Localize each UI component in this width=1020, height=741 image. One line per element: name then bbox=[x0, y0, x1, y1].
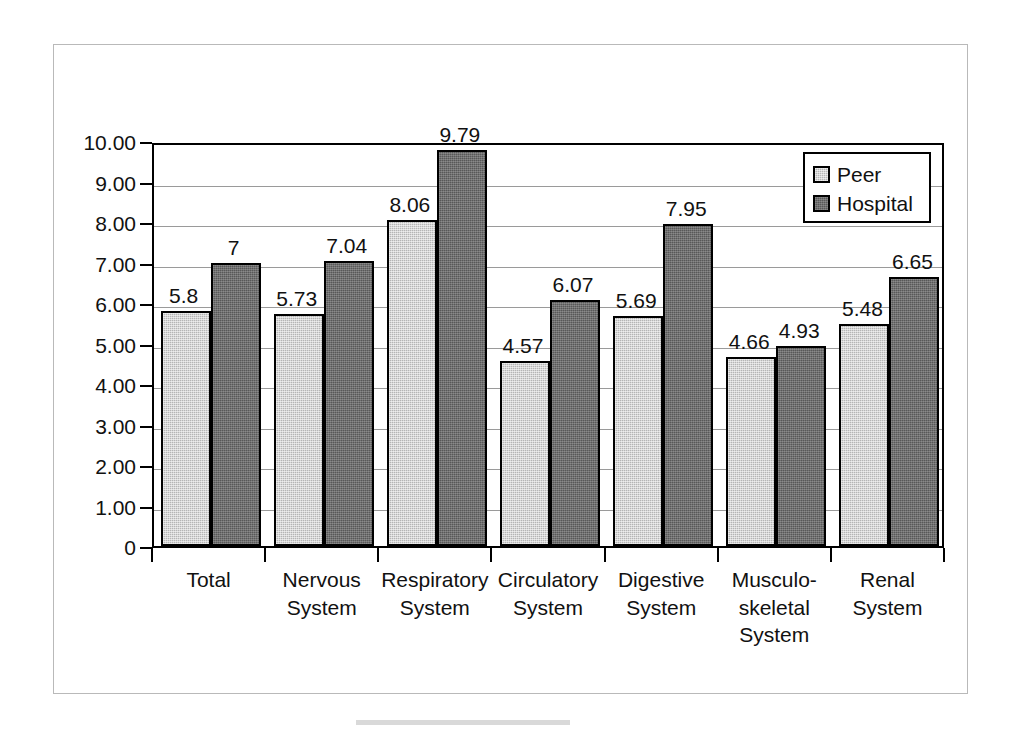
bar-hospital bbox=[663, 224, 713, 546]
y-axis-tick bbox=[140, 183, 152, 185]
bar-hospital bbox=[776, 346, 826, 546]
y-axis-tick bbox=[140, 507, 152, 509]
y-axis-label: 8.00 bbox=[40, 213, 136, 234]
legend-swatch-peer-icon bbox=[813, 166, 830, 183]
y-axis-label: 2.00 bbox=[40, 456, 136, 477]
x-axis-tick bbox=[264, 548, 266, 562]
x-axis-tick bbox=[604, 548, 606, 562]
legend-item-peer[interactable]: Peer bbox=[813, 160, 929, 189]
x-axis-tick bbox=[490, 548, 492, 562]
bar-value-label: 7.95 bbox=[647, 198, 725, 219]
x-axis-tick bbox=[151, 548, 153, 562]
bar-peer bbox=[839, 324, 889, 546]
bar-value-label: 4.93 bbox=[760, 320, 838, 341]
y-axis-tick bbox=[140, 142, 152, 144]
x-axis-tick bbox=[830, 548, 832, 562]
bar-peer bbox=[387, 220, 437, 546]
legend-item-hospital[interactable]: Hospital bbox=[813, 189, 929, 218]
bar-hospital bbox=[211, 263, 261, 547]
bar-peer bbox=[161, 311, 211, 546]
bar-value-label: 6.07 bbox=[534, 274, 612, 295]
y-axis-label: 6.00 bbox=[40, 294, 136, 315]
y-axis-label: 9.00 bbox=[40, 173, 136, 194]
bar-peer bbox=[726, 357, 776, 546]
bar-peer bbox=[613, 316, 663, 546]
y-axis-label: 10.00 bbox=[40, 132, 136, 153]
y-axis-label: 5.00 bbox=[40, 335, 136, 356]
x-axis-tick bbox=[717, 548, 719, 562]
y-axis-label: 0 bbox=[40, 537, 136, 558]
x-axis-tick bbox=[377, 548, 379, 562]
y-axis-tick bbox=[140, 264, 152, 266]
y-axis-tick bbox=[140, 345, 152, 347]
bar-value-label: 6.65 bbox=[873, 251, 951, 272]
y-axis-label: 7.00 bbox=[40, 254, 136, 275]
legend-swatch-hospital-icon bbox=[813, 195, 830, 212]
x-axis-tick bbox=[943, 548, 945, 562]
bar-value-label: 9.79 bbox=[421, 124, 499, 145]
gridline bbox=[154, 226, 942, 227]
legend-label-hospital: Hospital bbox=[837, 193, 913, 214]
x-axis-category-label: Renal System bbox=[819, 566, 956, 621]
y-axis-label: 3.00 bbox=[40, 416, 136, 437]
bar-hospital bbox=[324, 261, 374, 546]
y-axis-tick bbox=[140, 385, 152, 387]
bar-peer bbox=[500, 361, 550, 546]
bar-hospital bbox=[889, 277, 939, 546]
y-axis-label: 4.00 bbox=[40, 375, 136, 396]
gridline bbox=[154, 267, 942, 268]
bar-value-label: 7.04 bbox=[308, 235, 386, 256]
bar-hospital bbox=[437, 150, 487, 546]
bar-value-label: 7 bbox=[195, 237, 273, 258]
chart-legend: Peer Hospital bbox=[803, 152, 931, 223]
y-axis-tick bbox=[140, 426, 152, 428]
y-axis-tick bbox=[140, 466, 152, 468]
y-axis-label: 1.00 bbox=[40, 497, 136, 518]
bar-peer bbox=[274, 314, 324, 546]
grouped-bar-chart: 10.009.008.007.006.005.004.003.002.001.0… bbox=[0, 0, 1020, 741]
legend-label-peer: Peer bbox=[837, 164, 881, 185]
bar-hospital bbox=[550, 300, 600, 546]
y-axis-tick bbox=[140, 223, 152, 225]
